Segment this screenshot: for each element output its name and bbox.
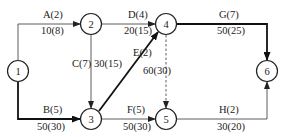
edge-h-activity: H(2) <box>219 104 239 116</box>
edge-g-cost: 50(25) <box>217 25 245 37</box>
edge-b-activity: B(5) <box>43 104 63 116</box>
node-2-label: 2 <box>88 19 93 30</box>
node-1: 1 <box>8 61 29 82</box>
node-1-label: 1 <box>15 66 20 77</box>
edge-a-cost: 10(8) <box>41 25 64 37</box>
network-diagram: A(2) 10(8) B(5) 50(30) C(7) 30(15) D(4) … <box>0 0 289 137</box>
node-2: 2 <box>81 14 102 35</box>
edge-g-activity: G(7) <box>219 9 239 21</box>
edge-c-cost: 30(15) <box>94 58 122 70</box>
node-3: 3 <box>81 109 102 130</box>
edge-e-activity: E(2) <box>133 47 152 59</box>
edge-e: E(2) 60(30) <box>99 32 171 111</box>
node-5-label: 5 <box>163 114 168 125</box>
edge-d: D(4) 20(15) <box>102 9 155 37</box>
node-4: 4 <box>156 14 177 35</box>
edge-h: H(2) 30(20) <box>177 82 267 133</box>
node-6-label: 6 <box>264 66 269 77</box>
edge-f-cost: 50(30) <box>123 121 151 133</box>
edge-a: A(2) 10(8) <box>18 9 80 60</box>
edge-g: G(7) 50(25) <box>177 9 267 60</box>
edge-c-activity: C(7) <box>72 58 92 70</box>
edge-b-cost: 50(30) <box>37 121 65 133</box>
edge-f: F(5) 50(30) <box>102 104 155 133</box>
edge-b: B(5) 50(30) <box>18 82 80 133</box>
edge-e-cost: 60(30) <box>143 65 171 77</box>
edge-d-activity: D(4) <box>128 9 148 21</box>
edge-c: C(7) 30(15) <box>72 35 122 108</box>
edge-d-cost: 20(15) <box>124 25 152 37</box>
edge-h-cost: 30(20) <box>217 121 245 133</box>
node-5: 5 <box>156 109 177 130</box>
edge-a-activity: A(2) <box>43 9 63 21</box>
node-3-label: 3 <box>88 114 93 125</box>
node-6: 6 <box>257 61 278 82</box>
node-4-label: 4 <box>163 19 169 30</box>
edge-f-activity: F(5) <box>127 104 146 116</box>
